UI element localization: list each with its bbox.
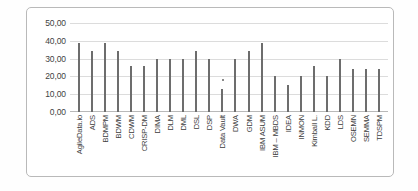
bar[interactable]: [195, 51, 197, 112]
x-axis-category-label: DML: [179, 115, 188, 131]
x-label-slot: DSP: [203, 113, 216, 185]
x-axis-category-label: BDWM: [113, 115, 122, 138]
x-axis-category-label: DWA: [231, 115, 240, 132]
bar-slot: [242, 23, 255, 112]
bar-slot: [255, 23, 268, 112]
x-axis-category-label: DIMA: [153, 115, 162, 133]
bar-slot: [294, 23, 307, 112]
x-label-slot: DIMA: [150, 113, 163, 185]
bar-slot: [177, 23, 190, 112]
bar[interactable]: [300, 76, 302, 112]
bar[interactable]: [143, 66, 145, 112]
x-label-slot: SEMMA: [360, 113, 373, 185]
bar-chart: 50,0040,0030,0020,0010,000,00 AgileData.…: [0, 0, 418, 191]
x-label-slot: BDMPM: [98, 113, 111, 185]
bar-slot: [229, 23, 242, 112]
x-label-slot: DLM: [164, 113, 177, 185]
bar-slot: [150, 23, 163, 112]
y-axis: 50,0040,0030,0020,0010,000,00: [26, 17, 66, 115]
x-label-slot: GDM: [242, 113, 255, 185]
bar-slot: [373, 23, 386, 112]
x-label-slot: IDEA: [281, 113, 294, 185]
bar[interactable]: [352, 69, 354, 112]
y-axis-tick-label: 30,00: [45, 54, 66, 64]
bar[interactable]: [313, 66, 315, 112]
bar[interactable]: [248, 51, 250, 112]
bar[interactable]: [104, 43, 106, 112]
x-label-slot: ADS: [85, 113, 98, 185]
x-axis-category-label: TDSPM: [375, 115, 384, 141]
plot-area: [70, 23, 388, 112]
x-axis-labels: AgileData.ioADSBDMPMBDWMCDWMCRISP-DMDIMA…: [70, 113, 388, 185]
bar-slot: [347, 23, 360, 112]
x-axis-category-label: LDS: [336, 115, 345, 129]
x-label-slot: Kimball L.: [307, 113, 320, 185]
bar[interactable]: [130, 66, 132, 112]
bar-slot: [307, 23, 320, 112]
x-axis-category-label: Kimball L.: [309, 115, 318, 147]
y-axis-tick-label: 0,00: [50, 107, 66, 117]
bar[interactable]: [326, 76, 328, 112]
x-label-slot: LDS: [334, 113, 347, 185]
bar[interactable]: [169, 59, 171, 112]
x-axis-category-label: INMON: [296, 115, 305, 140]
x-label-slot: INMON: [294, 113, 307, 185]
bar[interactable]: [274, 76, 276, 112]
x-label-slot: OSEMN: [347, 113, 360, 185]
x-axis-category-label: IDEA: [283, 115, 292, 132]
x-axis-category-label: AgileData.io: [74, 115, 83, 154]
x-label-slot: IBM – MBDS: [268, 113, 281, 185]
y-axis-tick-label: 40,00: [45, 36, 66, 46]
x-label-slot: IBM ASUM: [255, 113, 268, 185]
x-label-slot: AgileData.io: [72, 113, 85, 185]
bar-slot: [334, 23, 347, 112]
x-label-slot: CRISP-DM: [137, 113, 150, 185]
x-axis-category-label: IBM – MBDS: [270, 115, 279, 157]
bar[interactable]: [234, 59, 236, 112]
bar[interactable]: [261, 43, 263, 112]
x-axis-category-label: GDM: [244, 115, 253, 132]
x-label-slot: CDWM: [124, 113, 137, 185]
x-axis-category-label: OSEMN: [349, 115, 358, 142]
bar-slot: [203, 23, 216, 112]
bar-series: [70, 23, 388, 112]
x-axis-category-label: IBM ASUM: [257, 115, 266, 151]
y-axis-tick-label: 50,00: [45, 18, 66, 28]
bar-slot: [268, 23, 281, 112]
x-axis-category-label: SEMMA: [362, 115, 371, 142]
stray-speck: [222, 79, 224, 81]
bar-slot: [281, 23, 294, 112]
x-axis-category-label: DSP: [205, 115, 214, 130]
bar[interactable]: [208, 59, 210, 112]
bar-slot: [216, 23, 229, 112]
bar-slot: [360, 23, 373, 112]
x-axis-category-label: ADS: [87, 115, 96, 130]
x-label-slot: KDD: [320, 113, 333, 185]
bar[interactable]: [117, 51, 119, 112]
bar[interactable]: [378, 69, 380, 112]
bar-slot: [164, 23, 177, 112]
bar-slot: [124, 23, 137, 112]
x-label-slot: DML: [177, 113, 190, 185]
bar[interactable]: [156, 59, 158, 112]
bar[interactable]: [287, 85, 289, 112]
x-label-slot: BDWM: [111, 113, 124, 185]
bar-slot: [111, 23, 124, 112]
bar-slot: [190, 23, 203, 112]
bar[interactable]: [78, 43, 80, 112]
x-axis-category-label: KDD: [323, 115, 332, 131]
bar-slot: [98, 23, 111, 112]
x-axis-category-label: CDWM: [126, 115, 135, 139]
x-axis-category-label: DLM: [166, 115, 175, 131]
bar[interactable]: [339, 59, 341, 112]
x-axis-category-label: BDMPM: [100, 115, 109, 143]
x-label-slot: DWA: [229, 113, 242, 185]
bar[interactable]: [91, 51, 93, 112]
y-axis-tick-label: 20,00: [45, 71, 66, 81]
bar[interactable]: [365, 69, 367, 112]
bar[interactable]: [182, 59, 184, 112]
x-axis-category-label: CRISP-DM: [139, 115, 148, 151]
bar[interactable]: [221, 89, 223, 112]
x-label-slot: Data Vault: [216, 113, 229, 185]
bar-slot: [85, 23, 98, 112]
